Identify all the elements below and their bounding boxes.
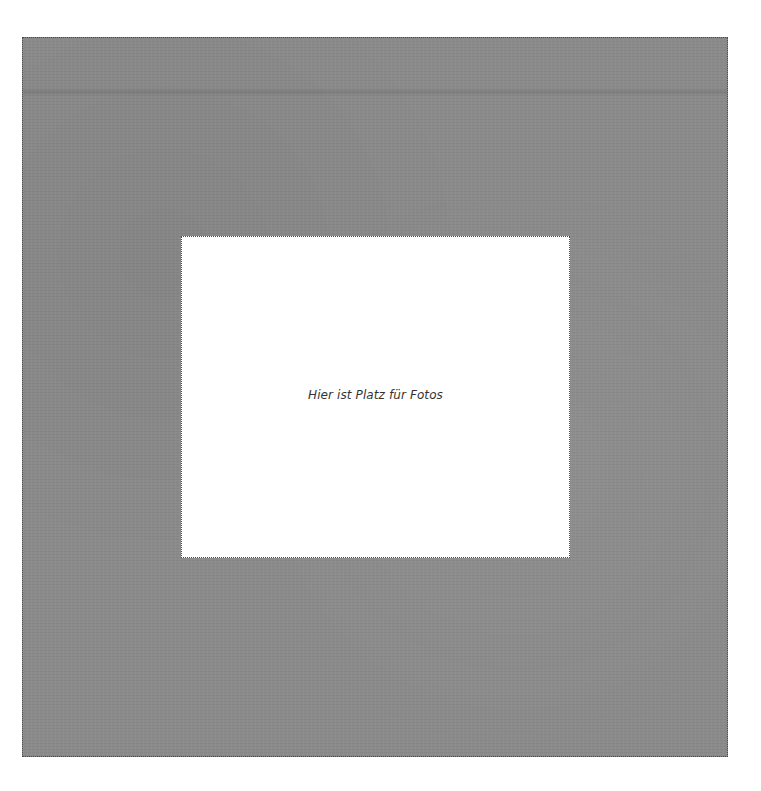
page-canvas: Hier ist Platz für Fotos [0, 0, 761, 791]
frame-texture-band [23, 88, 727, 96]
photo-placeholder-label: Hier ist Platz für Fotos [308, 388, 443, 402]
photo-drop-zone[interactable]: Hier ist Platz für Fotos [181, 236, 570, 558]
